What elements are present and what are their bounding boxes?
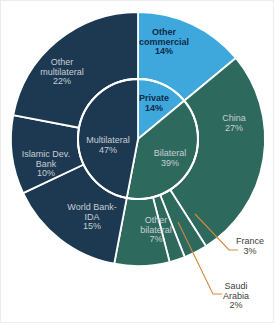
- chart-figure: Private14%Bilateral39%Multilateral47%Oth…: [0, 0, 274, 323]
- label-france: France3%: [236, 236, 264, 256]
- nested-donut-chart: Private14%Bilateral39%Multilateral47%Oth…: [1, 1, 274, 323]
- label-saudi-arabia: SaudiArabia2%: [223, 281, 249, 310]
- label-china: China27%: [222, 113, 246, 133]
